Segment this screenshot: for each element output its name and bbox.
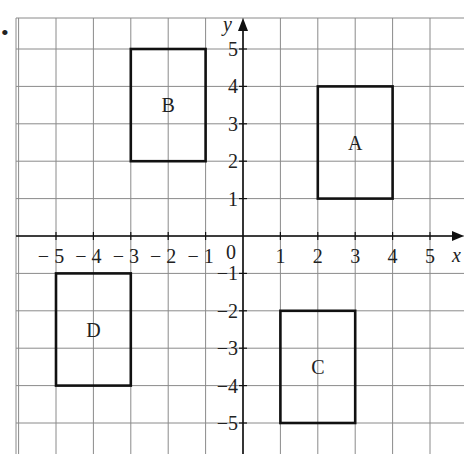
y-tick-label: 2 bbox=[228, 150, 238, 172]
x-axis-arrow-icon bbox=[452, 231, 464, 241]
x-axis-label: x bbox=[451, 244, 461, 266]
x-tick-label: 5 bbox=[425, 245, 435, 267]
x-tick-label: 4 bbox=[388, 245, 398, 267]
y-axis-arrow-icon bbox=[238, 18, 248, 31]
y-tick-label: 4 bbox=[228, 75, 238, 97]
coordinate-grid-diagram: − 5− 4− 3− 2− 11234554321−1−2−3−4−5 ABCD… bbox=[0, 0, 464, 454]
question-bullet: • bbox=[1, 20, 9, 45]
y-tick-label: −2 bbox=[217, 300, 238, 322]
y-tick-label: 5 bbox=[228, 38, 238, 60]
y-tick-label: −1 bbox=[217, 262, 238, 284]
y-tick-label: −5 bbox=[217, 412, 238, 434]
x-tick-label: − 1 bbox=[187, 245, 213, 267]
y-tick-label: −3 bbox=[217, 337, 238, 359]
y-tick-label: 3 bbox=[228, 113, 238, 135]
y-tick-label: 1 bbox=[228, 188, 238, 210]
shape-label-a: A bbox=[348, 132, 363, 154]
shape-label-b: B bbox=[162, 94, 175, 116]
axes bbox=[16, 18, 464, 454]
x-tick-label: 2 bbox=[313, 245, 323, 267]
y-axis-label: y bbox=[221, 13, 232, 36]
plot-svg: − 5− 4− 3− 2− 11234554321−1−2−3−4−5 ABCD… bbox=[0, 0, 464, 454]
x-tick-label: − 4 bbox=[75, 245, 101, 267]
x-tick-label: − 2 bbox=[150, 245, 176, 267]
x-tick-label: − 5 bbox=[38, 245, 64, 267]
shape-label-c: C bbox=[311, 356, 324, 378]
x-tick-label: − 3 bbox=[113, 245, 139, 267]
x-tick-label: 1 bbox=[275, 245, 285, 267]
y-tick-label: −4 bbox=[217, 375, 238, 397]
shape-label-d: D bbox=[86, 319, 100, 341]
x-tick-label: 3 bbox=[350, 245, 360, 267]
origin-label: 0 bbox=[226, 241, 236, 263]
